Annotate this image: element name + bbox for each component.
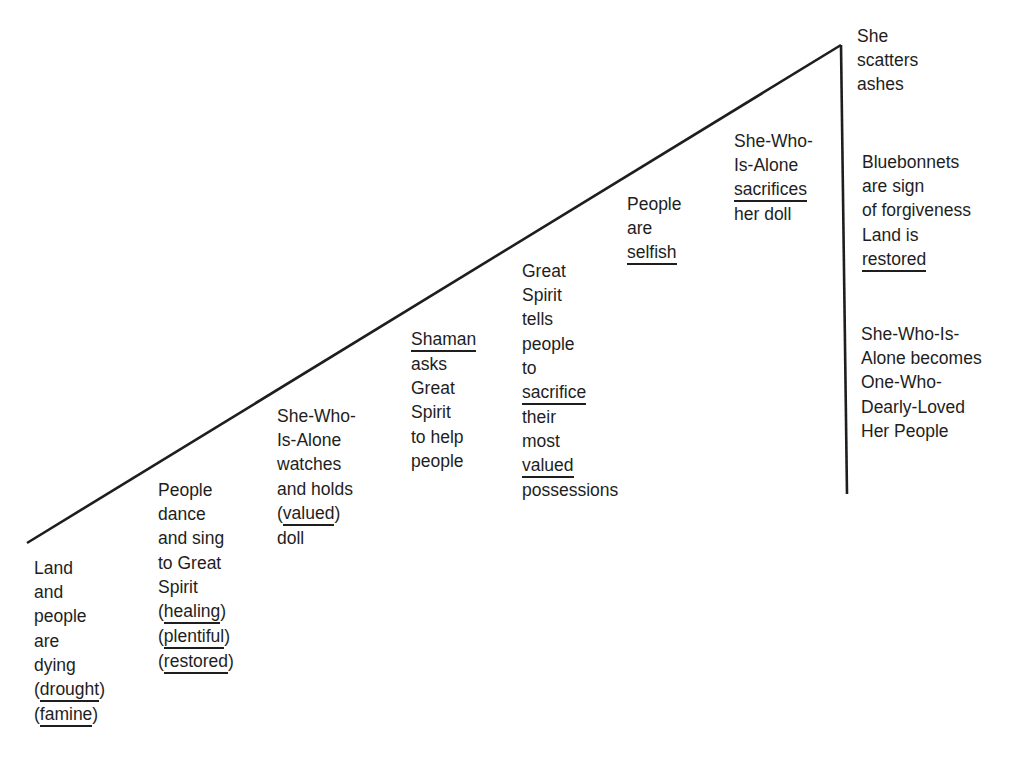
event-text-line: ashes [857,72,918,96]
event-text-line: Her People [861,419,982,443]
event-text-line: and [34,580,105,604]
event-text-line: to help [411,425,476,449]
event-people-selfish: Peopleareselfish [627,192,682,265]
event-text-line: People [627,192,682,216]
event-text-line: (famine) [34,702,105,727]
event-text-line: sacrifice [522,380,618,405]
event-text-line: Land [34,556,105,580]
event-text-line: Spirit [158,575,234,599]
event-text-line: She-Who- [277,404,356,428]
falling-action-line [841,45,847,494]
event-text-line: Shaman [411,327,476,352]
event-text-line: asks [411,352,476,376]
event-text-line: are sign [862,174,971,198]
event-text-line: (valued) [277,501,356,526]
event-text-line: to [522,356,618,380]
event-text-line: (drought) [34,677,105,702]
event-text-line: sacrifices [734,177,813,202]
event-text-line: and sing [158,526,234,550]
event-text-line: most [522,429,618,453]
event-text-line: Great [522,259,618,283]
event-text-line: Dearly-Loved [861,395,982,419]
event-text-line: of forgiveness [862,198,971,222]
event-text-line: Great [411,376,476,400]
event-text-line: her doll [734,202,813,226]
event-text-line: (restored) [158,649,234,674]
event-text-line: possessions [522,478,618,502]
event-text-line: watches [277,452,356,476]
event-text-line: people [34,604,105,628]
event-text-line: and holds [277,477,356,501]
event-text-line: (healing) [158,599,234,624]
event-text-line: are [34,629,105,653]
resolution-she-becomes: She-Who-Is-Alone becomesOne-Who-Dearly-L… [861,322,982,443]
resolution-bluebonnets: Bluebonnetsare signof forgivenessLand is… [862,150,971,272]
event-text-line: Alone becomes [861,346,982,370]
event-text-line: One-Who- [861,370,982,394]
event-text-line: She [857,24,918,48]
event-text-line: Is-Alone [734,153,813,177]
event-text-line: doll [277,526,356,550]
event-shaman-asks: ShamanasksGreatSpiritto helppeople [411,327,476,473]
event-text-line: are [627,216,682,240]
event-text-line: tells [522,307,618,331]
event-text-line: dance [158,502,234,526]
event-text-line: scatters [857,48,918,72]
event-text-line: their [522,405,618,429]
event-land-dying: Landandpeoplearedying(drought)(famine) [34,556,105,727]
event-she-watches-doll: She-Who-Is-Alonewatchesand holds(valued)… [277,404,356,550]
event-text-line: People [158,478,234,502]
event-text-line: dying [34,653,105,677]
event-text-line: (plentiful) [158,624,234,649]
event-text-line: to Great [158,551,234,575]
event-text-line: Is-Alone [277,428,356,452]
event-text-line: valued [522,453,618,478]
event-spirit-tells-sacrifice: GreatSpirittellspeopletosacrificetheirmo… [522,259,618,503]
event-people-dance: Peopledanceand singto GreatSpirit(healin… [158,478,234,674]
event-text-line: selfish [627,240,682,265]
event-text-line: Spirit [411,400,476,424]
event-text-line: She-Who-Is- [861,322,982,346]
event-text-line: Bluebonnets [862,150,971,174]
climax-scatters-ashes: Shescattersashes [857,24,918,97]
event-text-line: people [522,332,618,356]
event-she-sacrifices-doll: She-Who-Is-Alonesacrificesher doll [734,129,813,227]
event-text-line: Spirit [522,283,618,307]
event-text-line: people [411,449,476,473]
event-text-line: Land is [862,223,971,247]
event-text-line: restored [862,247,971,272]
event-text-line: She-Who- [734,129,813,153]
